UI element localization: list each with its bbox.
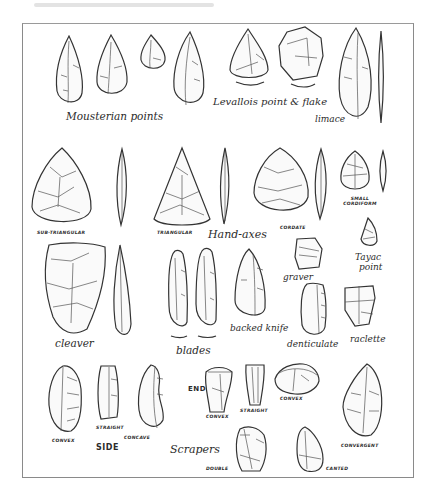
label-side-concave: CONCAVE: [124, 435, 150, 440]
label-small-cordiform: SMALL CORDIFORM: [342, 196, 378, 206]
blade-1: [167, 250, 189, 330]
mousterian-point-4: [172, 31, 206, 109]
cleaver-profile: [112, 244, 132, 336]
label-end-convex-2: CONVEX: [280, 396, 303, 401]
label-convergent: CONVERGENT: [341, 443, 379, 448]
label-levallois: Levallois point & flake: [213, 96, 327, 107]
label-limace: limace: [315, 114, 345, 124]
mousterian-point-3: [139, 34, 167, 72]
label-end-convex: CONVEX: [206, 414, 229, 419]
denticulate: [299, 283, 327, 337]
double-scraper: [234, 425, 268, 473]
blade-2: [194, 248, 218, 330]
label-tayac-point-1: Tayac: [355, 252, 381, 262]
side-scraper-concave: [135, 364, 167, 432]
label-end-straight: STRAIGHT: [240, 408, 268, 413]
mousterian-point-2: [94, 34, 130, 98]
label-triangular: TRIANGULAR: [157, 230, 193, 235]
side-scraper-straight: [95, 365, 121, 421]
end-scraper-straight: [244, 363, 266, 407]
mousterian-point-1: [53, 35, 85, 107]
side-scraper-convex: [47, 365, 83, 433]
cleaver: [43, 243, 107, 335]
label-canted: CANTED: [326, 466, 348, 471]
label-sub-triangular: SUB-TRIANGULAR: [37, 230, 85, 235]
cordate-handaxe: [252, 147, 310, 217]
label-backed-knife: backed knife: [230, 323, 288, 333]
label-tayac-point-2: point: [359, 262, 382, 272]
small-cordiform-profile: [379, 150, 387, 192]
triangular-profile: [219, 147, 231, 225]
label-graver: graver: [283, 272, 313, 282]
raclette: [341, 284, 377, 328]
label-side: SIDE: [96, 443, 119, 452]
label-cleaver: cleaver: [55, 337, 94, 349]
end-scraper-convex-2: [273, 363, 321, 395]
label-blades: blades: [176, 344, 211, 356]
levallois-point: [228, 28, 270, 84]
backed-knife: [233, 248, 267, 320]
label-hand-axes: Hand-axes: [208, 228, 267, 241]
limace-face: [336, 27, 374, 123]
levallois-flake: [277, 26, 325, 88]
sub-triangular-profile: [115, 148, 129, 226]
sub-triangular-handaxe: [30, 147, 93, 229]
triangular-handaxe: [152, 147, 212, 229]
end-scraper-convex: [202, 366, 234, 414]
convergent-scraper: [341, 363, 383, 439]
canted-scraper: [295, 425, 325, 473]
label-mousterian-points: Mousterian points: [66, 110, 163, 122]
label-cordate: CORDATE: [280, 225, 306, 230]
cordate-profile: [313, 148, 329, 220]
limace-profile: [378, 30, 384, 124]
label-scrapers: Scrapers: [170, 443, 220, 456]
label-raclette: raclette: [350, 334, 385, 344]
graver: [293, 237, 323, 271]
small-cordiform-handaxe: [339, 150, 371, 192]
label-side-convex: CONVEX: [52, 438, 75, 443]
label-denticulate: denticulate: [287, 339, 338, 349]
label-side-straight: STRAIGHT: [96, 425, 124, 430]
tayac-point: [359, 217, 379, 249]
label-double: DOUBLE: [206, 466, 228, 471]
caption-line: [34, 3, 214, 7]
